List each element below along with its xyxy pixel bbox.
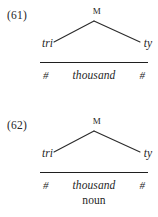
example-number: (61) bbox=[7, 9, 27, 22]
tree-leaf-right: ty bbox=[144, 37, 152, 50]
tier-divider-rule bbox=[40, 172, 148, 173]
stem-word: thousand bbox=[40, 68, 148, 83]
example-block-61: (61) M tri ty # thousand # bbox=[0, 0, 158, 105]
boundary-symbol-right: # bbox=[140, 68, 146, 83]
tree-leaf-left: tri bbox=[42, 37, 53, 50]
syllable-tree: M tri ty bbox=[40, 114, 154, 170]
segmental-tier-row: # thousand # bbox=[40, 68, 148, 84]
tree-root-label: M bbox=[40, 116, 154, 126]
category-gloss: noun bbox=[40, 193, 148, 207]
syllable-tree: M tri ty bbox=[40, 4, 154, 60]
tier-divider-rule bbox=[40, 62, 148, 63]
tree-leaf-right: ty bbox=[144, 147, 152, 160]
example-block-62: (62) M tri ty # thousand # noun bbox=[0, 110, 158, 217]
segmental-tier-row: # thousand # bbox=[40, 178, 148, 194]
tree-root-label: M bbox=[40, 6, 154, 16]
stem-word: thousand bbox=[40, 178, 148, 193]
boundary-symbol-right: # bbox=[140, 178, 146, 193]
tree-leaf-left: tri bbox=[42, 147, 53, 160]
example-number: (62) bbox=[7, 119, 27, 132]
